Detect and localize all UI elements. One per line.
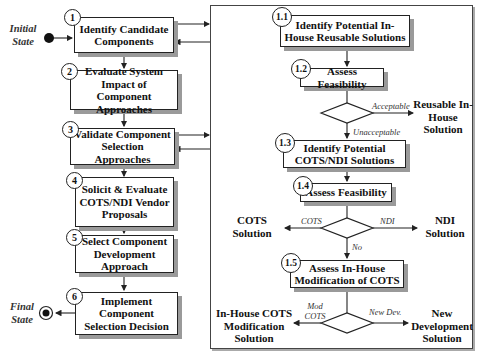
decision-1-reject-label: Unacceptable — [353, 127, 400, 137]
step-6-number: 6 — [66, 288, 83, 305]
step-5-number: 5 — [66, 229, 83, 246]
substep-1-2-number: 1.2 — [291, 59, 311, 79]
step-3-box: Validate Component Selection Approaches — [70, 128, 175, 165]
decision-3-new-dev-label: New Dev. — [369, 307, 401, 317]
decision-1 — [321, 103, 373, 123]
substep-1-4-box: Assess Feasibility — [300, 183, 392, 202]
substep-1-5-number: 1.5 — [281, 253, 301, 273]
substep-1-3-box: Identify Potential COTS/NDI Solutions — [283, 140, 406, 168]
decision-2-cots-label: COTS — [301, 216, 322, 226]
decision-3 — [321, 313, 373, 333]
outcome-reusable-in-house: Reusable In-House Solution — [413, 98, 473, 136]
outcome-in-house-cots-modification: In-House COTS Modification Solution — [214, 307, 294, 345]
initial-state-label: Initial State — [4, 22, 42, 48]
outcome-ndi: NDI Solution — [420, 214, 470, 239]
outcome-cots: COTS Solution — [224, 214, 280, 239]
step-2-number: 2 — [61, 63, 78, 80]
outcome-new-development: New Development Solution — [407, 307, 477, 345]
substep-1-3-number: 1.3 — [275, 133, 295, 153]
decision-2-ndi-label: NDI — [380, 216, 395, 226]
decision-3-mod-cots-label: Mod COTS — [302, 301, 328, 321]
decision-2 — [321, 218, 373, 238]
decision-1-accept-label: Acceptable — [372, 101, 410, 111]
component-selection-diagram: Initial State Final State Identify Candi… — [0, 0, 479, 356]
decision-2-no-label: No — [352, 242, 362, 252]
step-4-number: 4 — [66, 172, 83, 189]
step-3-number: 3 — [62, 121, 79, 138]
step-6-box: Implement Component Selection Decision — [75, 292, 178, 335]
substep-1-1-number: 1.1 — [272, 7, 292, 27]
step-1-number: 1 — [64, 9, 81, 26]
step-1-box: Identify Candidate Components — [74, 17, 174, 53]
step-2-box: Evaluate System Impact of Component Appr… — [70, 70, 178, 110]
step-4-box: Solicit & Evaluate COTS/NDI Vendor Propo… — [75, 177, 174, 227]
final-state-label: Final State — [4, 300, 40, 326]
substep-1-5-box: Assess In-House Modification of COTS — [290, 260, 404, 288]
step-5-box: Select Component Development Approach — [75, 235, 174, 273]
substep-1-4-number: 1.4 — [293, 176, 313, 196]
substep-1-1-box: Identify Potential In-House Reusable Sol… — [280, 15, 410, 47]
substep-1-2-box: Assess Feasibility — [300, 68, 384, 87]
